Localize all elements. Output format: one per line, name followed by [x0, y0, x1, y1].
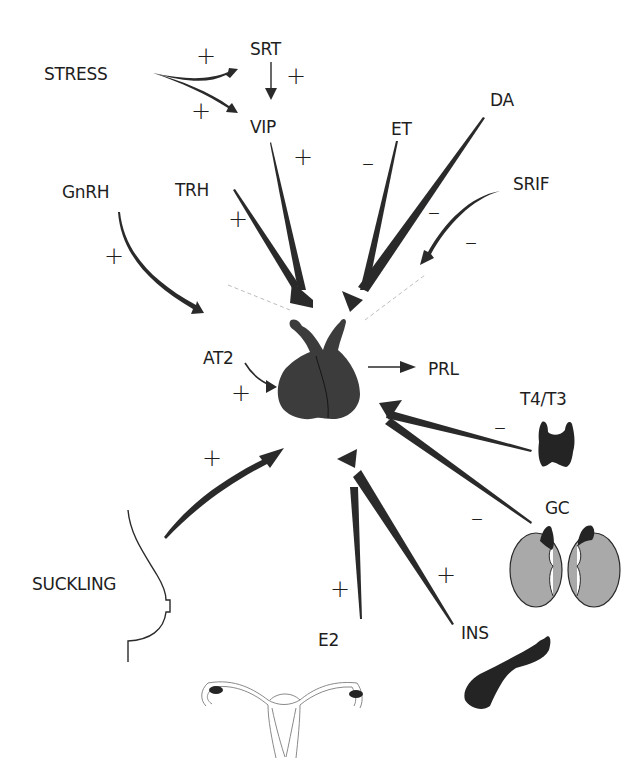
sign-stress-srt: + [196, 42, 216, 70]
sign-srif-2: – [465, 228, 477, 256]
sign-et-pit: – [362, 149, 374, 177]
label-ins: INS [461, 623, 489, 643]
sign-gnrh-at2: + [104, 242, 124, 270]
prolactin-regulation-diagram: STRESS SRT VIP GnRH TRH ET DA SRIF AT2 P… [0, 0, 643, 761]
label-srif: SRIF [513, 174, 549, 194]
label-e2: E2 [318, 630, 339, 650]
label-at2: AT2 [203, 348, 234, 368]
arrow-srt-vip [265, 62, 277, 100]
sign-srt-vip: + [286, 62, 306, 90]
label-gc: GC [545, 498, 569, 518]
pancreas-icon [464, 636, 550, 709]
arrow-da-pituitary [342, 117, 485, 312]
arrow-pituitary-prl [368, 361, 416, 373]
label-trh: TRH [174, 180, 209, 200]
pituitary-gland [278, 319, 360, 419]
label-vip: VIP [250, 117, 276, 137]
sign-srif-1: – [428, 198, 440, 226]
adrenal-kidney-icon [510, 526, 620, 607]
label-prl: PRL [428, 359, 459, 379]
label-gnrh: GnRH [62, 182, 109, 202]
sign-vip-pit: + [293, 143, 313, 171]
label-da: DA [490, 90, 514, 110]
sign-gc-pit: – [471, 504, 483, 532]
label-et: ET [391, 119, 412, 139]
arrow-t4t3-pituitary [379, 400, 532, 452]
label-srt: SRT [250, 39, 282, 59]
sign-at2-pit: + [231, 379, 251, 407]
sign-suckling-pit: + [202, 444, 222, 472]
sign-t4t3-pit: – [494, 413, 506, 441]
arrow-ins-pituitary [353, 470, 454, 625]
breast-icon [128, 510, 170, 662]
label-t4t3: T4/T3 [519, 389, 567, 409]
thyroid-icon [538, 422, 574, 467]
arrow-suckling-pituitary [164, 448, 284, 539]
arrow-gnrh-at2 [118, 212, 204, 314]
sign-ins-pit: + [436, 561, 456, 589]
uterus-ovaries-icon [202, 682, 362, 758]
faint-median-eminence-lines [228, 275, 425, 320]
sign-stress-vip: + [191, 97, 211, 125]
sign-e2-pit: + [330, 575, 350, 603]
label-stress: STRESS [44, 64, 108, 84]
label-suckling: SUCKLING [32, 574, 116, 594]
